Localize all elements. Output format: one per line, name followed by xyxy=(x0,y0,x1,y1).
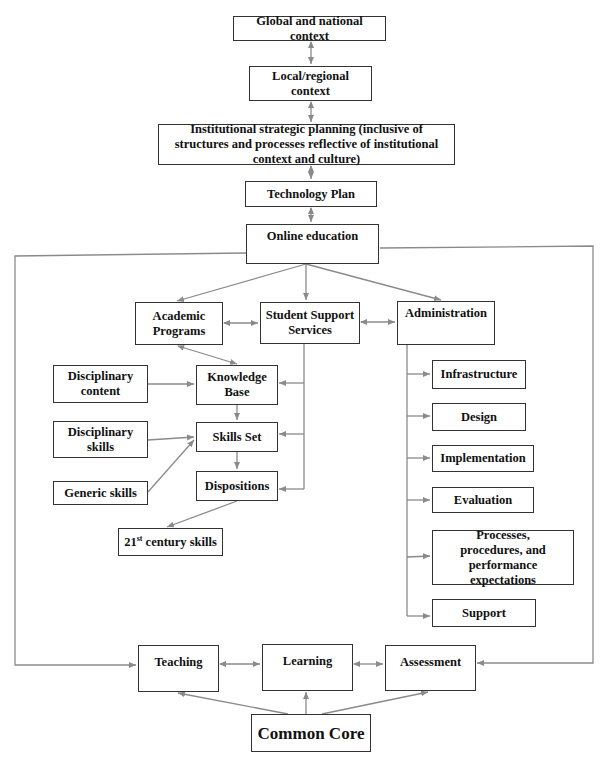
node-label: Disciplinary content xyxy=(66,369,135,399)
century-text: century skills xyxy=(142,535,216,549)
node-label: Institutional strategic planning (inclus… xyxy=(167,122,446,167)
century-number: 21 xyxy=(124,535,137,549)
node-label: Online education xyxy=(267,229,358,244)
node-skills-set: Skills Set xyxy=(196,422,278,452)
node-dispositions: Dispositions xyxy=(196,471,278,501)
node-generic-skills: Generic skills xyxy=(53,481,148,505)
node-learning: Learning xyxy=(262,644,353,691)
node-administration: Administration xyxy=(397,301,495,345)
node-label: Global and national context xyxy=(237,14,382,44)
node-global-national-context: Global and national context xyxy=(233,16,386,41)
node-label: Generic skills xyxy=(64,486,137,501)
node-label: Common Core xyxy=(258,726,365,741)
node-label: Local/regional context xyxy=(253,69,368,99)
node-institutional-strategic-planning: Institutional strategic planning (inclus… xyxy=(158,124,455,165)
node-label: 21st century skills xyxy=(124,535,217,550)
node-assessment: Assessment xyxy=(385,645,476,691)
node-label: Assessment xyxy=(400,655,461,670)
node-disciplinary-skills: Disciplinary skills xyxy=(53,421,148,458)
node-label: Support xyxy=(462,606,506,621)
node-label: Disciplinary skills xyxy=(66,425,135,455)
node-label: Teaching xyxy=(154,655,202,670)
framework-diagram: Global and national context Local/region… xyxy=(0,0,601,761)
node-academic-programs: Academic Programs xyxy=(135,302,223,345)
node-student-support-services: Student Support Services xyxy=(260,302,360,344)
node-disciplinary-content: Disciplinary content xyxy=(53,365,148,403)
node-processes-procedures: Processes, procedures, and performance e… xyxy=(432,530,574,585)
node-label: Processes, procedures, and performance e… xyxy=(445,528,561,588)
node-label: Evaluation xyxy=(454,493,512,508)
node-label: Administration xyxy=(405,306,487,321)
node-label: Knowledge Base xyxy=(207,370,267,400)
node-support: Support xyxy=(432,599,536,627)
node-label: Dispositions xyxy=(205,479,270,494)
node-label: Student Support Services xyxy=(264,308,356,338)
node-label: Academic Programs xyxy=(150,309,208,339)
node-21st-century-skills: 21st century skills xyxy=(118,528,223,556)
node-local-regional-context: Local/regional context xyxy=(249,66,372,101)
node-label: Implementation xyxy=(440,451,525,466)
node-common-core: Common Core xyxy=(251,714,371,752)
node-label: Learning xyxy=(283,654,332,669)
node-evaluation: Evaluation xyxy=(432,487,534,513)
node-teaching: Teaching xyxy=(138,645,219,692)
node-label: Technology Plan xyxy=(267,187,355,202)
node-infrastructure: Infrastructure xyxy=(432,360,526,389)
node-label: Design xyxy=(461,410,497,425)
node-design: Design xyxy=(432,403,526,431)
node-knowledge-base: Knowledge Base xyxy=(196,365,278,405)
node-online-education: Online education xyxy=(246,224,379,264)
node-label: Skills Set xyxy=(213,430,262,445)
node-implementation: Implementation xyxy=(432,445,534,472)
node-label: Infrastructure xyxy=(441,367,518,382)
node-technology-plan: Technology Plan xyxy=(245,181,377,207)
